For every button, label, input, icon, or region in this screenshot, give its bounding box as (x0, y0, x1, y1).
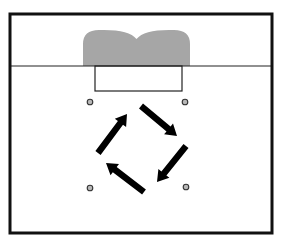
cone-top-left (87, 99, 93, 105)
arrow-down-right-icon (139, 104, 177, 137)
arrow-up-left-icon (106, 163, 146, 195)
cone-bottom-left (87, 185, 93, 191)
goal-area-fill (83, 30, 190, 66)
arrow-down-left-icon (157, 144, 189, 182)
goal-area-shape (83, 30, 190, 66)
goal-box (95, 66, 182, 91)
rotation-arrows (95, 104, 188, 195)
drill-diagram (0, 0, 283, 244)
cone-top-right (182, 99, 188, 105)
cone-bottom-right (183, 184, 189, 190)
arrow-up-right-icon (95, 114, 127, 155)
